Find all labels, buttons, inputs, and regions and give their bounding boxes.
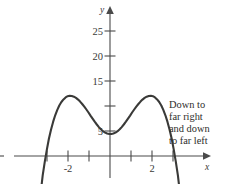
x-tick-label-minus2: -2 [64, 163, 73, 174]
x-axis-label: x [204, 162, 210, 172]
y-tick-label-20: 20 [93, 51, 104, 62]
y-axis [105, 6, 116, 178]
polynomial-graph-figure: 25 20 15 5 -2 2 y x [0, 0, 228, 184]
x-tick-label-2: 2 [149, 163, 154, 174]
end-behavior-annotation: Down to far right and down to far left [169, 99, 227, 147]
left-edge-mark [0, 155, 4, 157]
x-axis-arrowhead [203, 152, 211, 160]
graph-svg: 25 20 15 5 -2 2 y x [0, 0, 228, 184]
y-axis-label: y [99, 5, 105, 15]
y-tick-label-15: 15 [93, 76, 104, 87]
x-axis [14, 151, 211, 162]
y-axis-arrowhead [106, 6, 114, 14]
y-tick-label-25: 25 [93, 26, 104, 37]
